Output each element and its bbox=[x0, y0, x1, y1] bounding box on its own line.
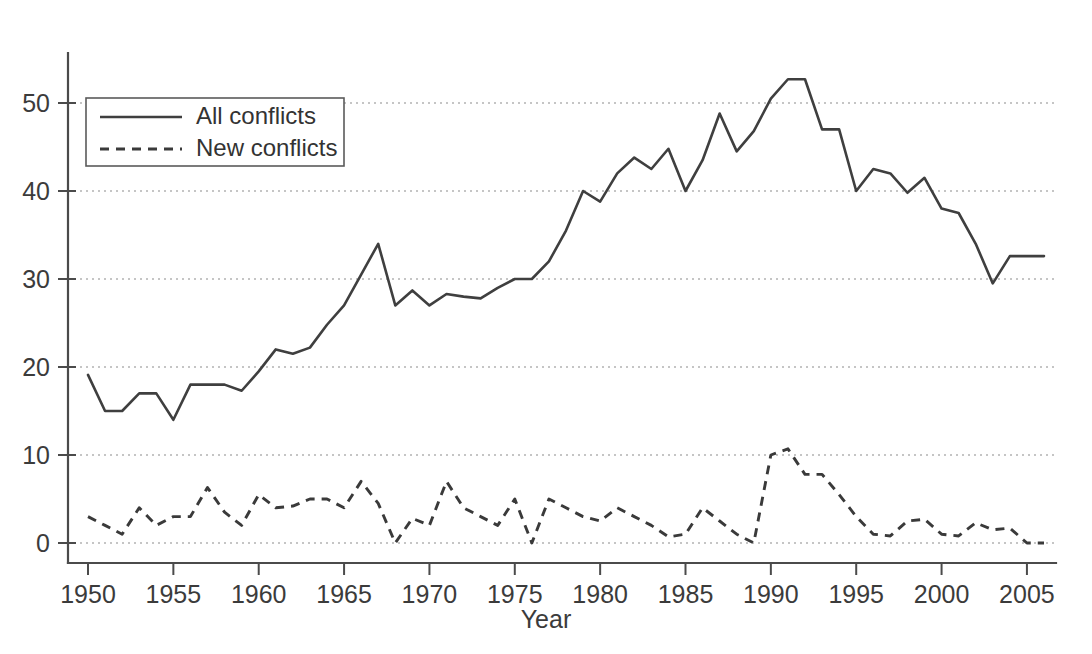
chart-legend: All conflictsNew conflicts bbox=[86, 98, 344, 166]
y-tick-label: 0 bbox=[36, 529, 50, 557]
legend-label: All conflicts bbox=[196, 102, 316, 129]
x-tick-label: 1960 bbox=[231, 580, 287, 608]
x-tick-label: 1990 bbox=[743, 580, 799, 608]
legend-label: New conflicts bbox=[196, 134, 337, 161]
tick-marks-group bbox=[58, 103, 1027, 575]
line-chart: 01020304050 1950195519601965197019751980… bbox=[0, 0, 1092, 654]
y-tick-labels-group: 01020304050 bbox=[22, 89, 50, 557]
x-tick-label: 2005 bbox=[999, 580, 1055, 608]
gridlines-group bbox=[68, 103, 1056, 543]
y-tick-label: 10 bbox=[22, 441, 50, 469]
y-tick-label: 50 bbox=[22, 89, 50, 117]
x-tick-label: 1965 bbox=[316, 580, 372, 608]
x-axis-title: Year bbox=[521, 605, 572, 633]
x-tick-labels-group: 1950195519601965197019751980198519901995… bbox=[60, 580, 1055, 608]
x-tick-label: 1995 bbox=[828, 580, 884, 608]
series-line-dashed bbox=[88, 449, 1044, 543]
chart-container: 01020304050 1950195519601965197019751980… bbox=[0, 0, 1092, 654]
x-tick-label: 1980 bbox=[572, 580, 628, 608]
x-tick-label: 1970 bbox=[402, 580, 458, 608]
x-tick-label: 1955 bbox=[146, 580, 202, 608]
y-tick-label: 40 bbox=[22, 177, 50, 205]
y-tick-label: 20 bbox=[22, 353, 50, 381]
x-tick-label: 1975 bbox=[487, 580, 543, 608]
x-tick-label: 1950 bbox=[60, 580, 116, 608]
y-tick-label: 30 bbox=[22, 265, 50, 293]
x-tick-label: 2000 bbox=[914, 580, 970, 608]
x-tick-label: 1985 bbox=[658, 580, 714, 608]
